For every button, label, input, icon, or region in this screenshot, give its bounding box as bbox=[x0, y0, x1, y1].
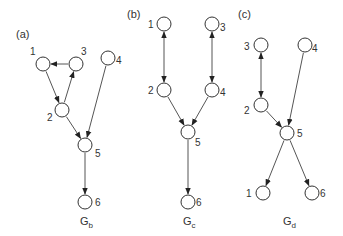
edge-2-5 bbox=[168, 97, 184, 125]
node-4 bbox=[298, 38, 312, 52]
edge-4-5 bbox=[289, 53, 304, 125]
graph-panel-d: (c)342516Gd bbox=[238, 8, 326, 230]
node-label-6: 6 bbox=[320, 188, 326, 199]
graph-caption: Gc bbox=[183, 215, 196, 230]
node-6 bbox=[181, 195, 195, 209]
node-1 bbox=[157, 17, 171, 31]
graph-caption: Gd bbox=[283, 215, 296, 230]
node-label-3: 3 bbox=[81, 46, 87, 57]
edge-2-5 bbox=[266, 111, 281, 127]
node-label-1: 1 bbox=[246, 188, 252, 199]
graph-caption: Gb bbox=[80, 215, 94, 230]
caption-main: G bbox=[80, 215, 89, 227]
node-1 bbox=[36, 57, 50, 71]
node-5 bbox=[78, 138, 92, 152]
caption-subscript: c bbox=[192, 221, 196, 230]
panel-label: (c) bbox=[238, 8, 251, 20]
node-2 bbox=[157, 83, 171, 97]
node-2 bbox=[254, 98, 268, 112]
node-label-4: 4 bbox=[116, 55, 122, 66]
node-label-2: 2 bbox=[47, 112, 53, 123]
node-label-1: 1 bbox=[148, 19, 154, 30]
edge-4-5 bbox=[87, 66, 106, 138]
node-label-3: 3 bbox=[220, 22, 226, 33]
node-label-1: 1 bbox=[30, 46, 36, 57]
node-label-4: 4 bbox=[220, 87, 226, 98]
edge-1-2 bbox=[46, 71, 59, 102]
causal-graphs-diagram: (a)134256Gb(b)132456Gc(c)342516Gd bbox=[0, 0, 343, 236]
caption-subscript: b bbox=[89, 221, 94, 230]
panel-label: (a) bbox=[16, 28, 29, 40]
edge-2-3 bbox=[64, 72, 73, 103]
edge-2-5 bbox=[66, 117, 80, 139]
node-5 bbox=[280, 126, 294, 140]
graph-panel-b: (a)134256Gb bbox=[16, 28, 122, 230]
node-label-5: 5 bbox=[95, 148, 101, 159]
edge-5-6 bbox=[290, 140, 309, 185]
node-label-4: 4 bbox=[312, 43, 318, 54]
node-label-6: 6 bbox=[196, 197, 202, 208]
node-3 bbox=[254, 38, 268, 52]
caption-main: G bbox=[183, 215, 192, 227]
node-label-3: 3 bbox=[244, 41, 250, 52]
edge-4-5 bbox=[192, 97, 208, 125]
graph-panel-c: (b)132456Gc bbox=[127, 8, 226, 230]
node-label-2: 2 bbox=[148, 85, 154, 96]
panel-label: (b) bbox=[127, 8, 140, 20]
node-6 bbox=[305, 186, 319, 200]
node-3 bbox=[69, 57, 83, 71]
node-4 bbox=[205, 83, 219, 97]
edge-5-1 bbox=[266, 140, 284, 185]
node-5 bbox=[181, 125, 195, 139]
caption-subscript: d bbox=[292, 221, 296, 230]
caption-main: G bbox=[283, 215, 292, 227]
node-6 bbox=[78, 195, 92, 209]
graphs-root: (a)134256Gb(b)132456Gc(c)342516Gd bbox=[16, 8, 326, 230]
node-label-5: 5 bbox=[297, 128, 303, 139]
node-1 bbox=[256, 186, 270, 200]
node-label-6: 6 bbox=[95, 197, 101, 208]
node-label-5: 5 bbox=[195, 137, 201, 148]
node-3 bbox=[205, 17, 219, 31]
node-2 bbox=[55, 103, 69, 117]
node-4 bbox=[101, 51, 115, 65]
node-label-2: 2 bbox=[244, 105, 250, 116]
